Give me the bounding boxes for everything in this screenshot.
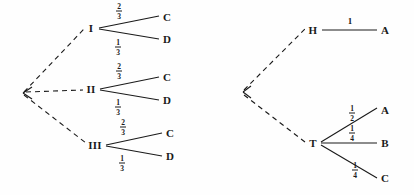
tree-diagram-canvas: I II III C D C D C D 2 3 1 3 2 3 1 3 2 3… [0, 0, 414, 195]
edge-probability-III-D: 1 3 [119, 155, 125, 172]
fraction-denominator: 3 [120, 128, 126, 136]
edge-probability-I-D: 1 3 [115, 39, 121, 56]
fraction-denominator: 3 [116, 12, 122, 20]
fraction-denominator: 4 [352, 171, 358, 179]
leaf-label-III-D: D [166, 151, 174, 162]
edge-III-C [106, 133, 162, 145]
leaf-label-III-C: C [166, 128, 174, 139]
right-root-vertex [243, 86, 251, 98]
node-label-I: I [89, 23, 93, 34]
edge-probability-T-C: 1 4 [352, 162, 358, 179]
node-label-II: II [87, 84, 96, 95]
leaf-label-II-D: D [163, 95, 171, 106]
fraction-denominator: 4 [349, 134, 355, 142]
edge-probability-III-C: 2 3 [120, 119, 126, 136]
fraction-numerator: 1 [349, 125, 355, 133]
edge-I-C [99, 16, 159, 28]
fraction-numerator: 1 [119, 155, 125, 163]
node-label-H: H [309, 25, 318, 36]
leaf-label-T-B: B [381, 138, 388, 149]
edge-probability-H-A: 1 [347, 17, 354, 27]
fraction-numerator: 2 [120, 119, 126, 127]
edge-probability-I-C: 2 3 [116, 3, 122, 20]
leaf-label-T-C: C [381, 173, 389, 184]
node-label-T: T [309, 138, 317, 149]
fraction-numerator: 1 [352, 162, 358, 170]
edge-root-I [24, 29, 84, 92]
edge-II-D [100, 90, 159, 100]
leaf-label-T-A: A [381, 105, 389, 116]
leaf-label-I-D: D [163, 34, 171, 45]
edge-II-C [100, 77, 159, 89]
leaf-label-I-C: C [163, 12, 171, 23]
fraction-numerator: 2 [116, 3, 122, 11]
edge-probability-T-B: 1 4 [349, 125, 355, 142]
fraction-numerator: 2 [116, 63, 122, 71]
edge-I-D [99, 29, 159, 39]
fraction-denominator: 3 [115, 108, 121, 116]
edge-root-II [26, 90, 83, 92]
edge-probability-II-C: 2 3 [116, 63, 122, 80]
edge-root-H [244, 29, 305, 90]
fraction-denominator: 3 [116, 72, 122, 80]
fraction-numerator: 1 [347, 17, 354, 27]
edge-III-D [106, 146, 162, 156]
edge-probability-T-A: 1 2 [349, 105, 355, 122]
edge-probability-II-D: 1 3 [115, 99, 121, 116]
fraction-numerator: 1 [115, 99, 121, 107]
leaf-label-H-A: A [381, 25, 389, 36]
fraction-numerator: 1 [115, 39, 121, 47]
fraction-denominator: 2 [349, 114, 355, 122]
leaf-label-II-C: C [163, 72, 171, 83]
fraction-denominator: 3 [115, 48, 121, 56]
fraction-denominator: 3 [119, 164, 125, 172]
edge-root-T [244, 95, 305, 142]
edge-root-III [24, 95, 86, 143]
fraction-numerator: 1 [349, 105, 355, 113]
edge-T-C [321, 145, 377, 178]
node-label-III: III [88, 140, 101, 151]
